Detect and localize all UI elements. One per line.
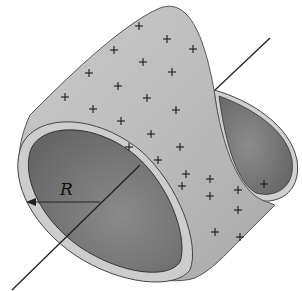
axis-line-upper (215, 38, 270, 90)
radius-label: R (59, 179, 73, 199)
cylinder-diagram: R (0, 0, 302, 291)
